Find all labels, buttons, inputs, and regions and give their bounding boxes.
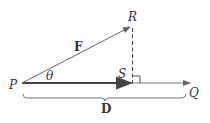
label-D: D [101,102,111,116]
force-vector [22,27,130,83]
brace-D [23,94,186,101]
label-Q: Q [189,86,199,100]
label-F: F [74,40,83,54]
work-projection-diagram: P Q R S θ F D [0,0,210,123]
right-angle-marker [133,76,140,83]
label-R: R [127,10,137,24]
label-P: P [8,78,18,92]
label-S: S [118,67,126,81]
label-theta: θ [46,69,54,83]
